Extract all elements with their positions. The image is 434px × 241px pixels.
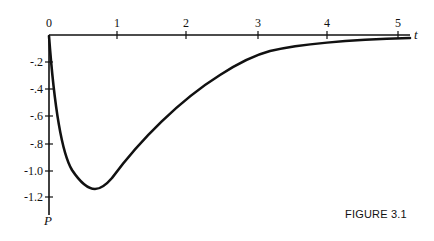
x-tick-label: 0: [46, 16, 52, 30]
chart: 0 1 2 3 4 5 t -.2 -.4 -.6 -.8 -1.0 -1.2 …: [0, 0, 434, 241]
y-tick-label: -.4: [30, 82, 43, 96]
y-tick-labels: -.2 -.4 -.6 -.8 -1.0 -1.2: [24, 55, 43, 204]
x-tick-labels: 0 1 2 3 4 5: [46, 16, 401, 30]
x-tick-label: 2: [183, 16, 189, 30]
y-tick-label: -1.2: [24, 190, 43, 204]
x-tick-label: 1: [114, 16, 120, 30]
y-tick-label: -.8: [30, 137, 43, 151]
x-axis-label: t: [414, 27, 418, 42]
data-curve: [49, 36, 410, 189]
x-tick-label: 3: [255, 16, 261, 30]
x-tick-label: 4: [324, 16, 330, 30]
y-tick-label: -.2: [30, 55, 43, 69]
x-tick-label: 5: [395, 16, 401, 30]
figure-caption: FIGURE 3.1: [345, 208, 407, 220]
y-axis-label: P: [43, 213, 52, 228]
y-tick-label: -1.0: [24, 164, 43, 178]
y-tick-label: -.6: [30, 109, 43, 123]
